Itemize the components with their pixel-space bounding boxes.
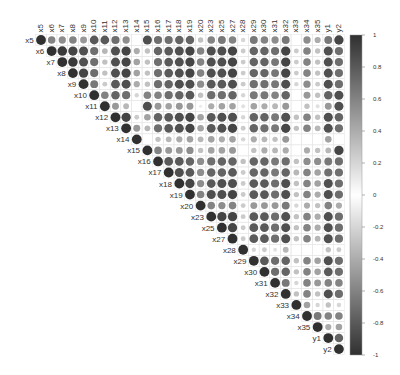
grid-cell xyxy=(312,134,323,145)
grid-cell xyxy=(131,34,142,45)
corr-circle xyxy=(304,104,309,109)
corr-circle xyxy=(249,223,258,232)
corr-circle xyxy=(249,179,258,188)
corr-circle xyxy=(250,124,258,132)
corr-circle xyxy=(135,93,139,97)
column-label: x9 xyxy=(79,23,88,32)
column-label: x10 xyxy=(89,19,98,32)
corr-circle xyxy=(324,157,332,165)
corr-circle xyxy=(134,48,140,54)
corr-circle xyxy=(197,47,205,55)
corr-circle xyxy=(154,58,162,66)
corr-circle xyxy=(164,168,174,178)
corr-circle xyxy=(228,223,237,232)
grid-cell xyxy=(302,244,313,255)
corr-circle xyxy=(250,36,258,44)
corr-circle xyxy=(334,91,343,100)
corr-circle xyxy=(303,268,311,276)
corr-circle xyxy=(198,37,203,42)
corr-circle xyxy=(315,291,320,296)
corr-circle xyxy=(260,223,269,232)
corr-circle xyxy=(241,181,246,186)
corr-circle xyxy=(250,58,258,66)
corr-circle xyxy=(198,93,203,98)
corr-circle xyxy=(69,36,77,44)
corr-circle xyxy=(185,190,195,200)
column-label: x32 xyxy=(281,19,290,32)
corr-circle xyxy=(303,213,311,221)
corr-circle xyxy=(185,46,194,55)
row-label: x23 xyxy=(191,213,204,222)
row-label: x9 xyxy=(68,80,77,89)
corr-circle xyxy=(241,71,246,76)
corr-circle xyxy=(281,257,289,265)
corr-circle xyxy=(324,212,333,221)
row-label: x29 xyxy=(234,257,247,266)
corr-circle xyxy=(335,290,343,298)
corr-circle xyxy=(133,70,140,77)
corr-circle xyxy=(250,168,258,176)
corr-circle xyxy=(335,213,343,221)
column-label: x13 xyxy=(121,19,130,32)
corr-circle xyxy=(241,115,245,119)
corr-circle xyxy=(261,202,268,209)
row-label: x35 xyxy=(297,323,310,332)
corr-circle xyxy=(335,312,343,320)
column-label: x30 xyxy=(259,19,268,32)
column-label: x17 xyxy=(164,19,173,32)
row-label: x30 xyxy=(244,268,257,277)
row-label: y2 xyxy=(323,345,332,354)
corr-circle xyxy=(122,36,129,43)
corr-circle xyxy=(145,48,150,53)
colorbar-tick-label: -0.4 xyxy=(373,256,384,262)
corr-circle xyxy=(185,124,194,133)
corr-circle xyxy=(228,80,237,89)
grid-cell xyxy=(291,34,302,45)
corr-circle xyxy=(165,91,173,99)
grid-cell xyxy=(291,90,302,101)
corr-circle xyxy=(304,147,310,153)
colorbar-tick-label: 0.4 xyxy=(373,128,382,134)
corr-circle xyxy=(196,201,206,211)
corr-circle xyxy=(218,36,226,44)
corr-circle xyxy=(303,113,311,121)
corr-circle xyxy=(325,136,332,143)
corr-circle xyxy=(315,82,320,87)
corr-circle xyxy=(271,169,279,177)
corr-circle xyxy=(241,236,246,241)
colorbar-tick-label: 0.8 xyxy=(373,64,382,70)
corr-circle xyxy=(271,36,278,43)
column-label: x8 xyxy=(68,23,77,32)
corr-circle xyxy=(68,46,77,55)
corr-circle xyxy=(228,168,237,177)
corr-circle xyxy=(324,234,333,243)
column-label: x14 xyxy=(132,19,141,32)
corr-circle xyxy=(79,47,88,56)
corr-circle xyxy=(335,334,343,342)
corr-circle xyxy=(281,91,289,99)
corr-circle xyxy=(251,103,258,110)
colorbar-tick-label: 0 xyxy=(373,192,377,198)
corr-circle xyxy=(48,36,56,44)
corr-circle xyxy=(315,37,321,43)
corr-circle xyxy=(324,80,333,89)
corr-circle xyxy=(111,91,119,99)
corr-circle xyxy=(316,104,320,108)
corr-circle xyxy=(260,80,268,88)
column-label: x25 xyxy=(217,19,226,32)
corr-circle xyxy=(335,69,343,77)
colorbar-tick-label: -1 xyxy=(373,352,379,358)
column-label: x27 xyxy=(228,19,237,32)
corr-circle xyxy=(197,58,205,66)
corr-circle xyxy=(217,113,226,122)
corr-circle xyxy=(281,68,290,77)
corr-circle xyxy=(175,124,184,133)
corr-circle xyxy=(102,48,108,54)
corr-circle xyxy=(121,68,130,77)
row-label: x14 xyxy=(117,135,130,144)
corr-circle xyxy=(197,81,204,88)
corr-circle xyxy=(185,68,194,77)
correlation-plot: x5x6x7x8x9x10x11x12x13x14x15x16x17x18x19… xyxy=(0,0,400,375)
corr-circle xyxy=(218,202,225,209)
corr-circle xyxy=(208,103,214,109)
